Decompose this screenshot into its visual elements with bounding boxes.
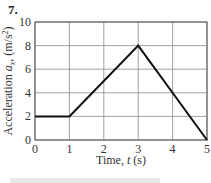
y-tick-label: 0	[25, 133, 31, 147]
grid	[35, 22, 207, 140]
y-tick-label: 8	[25, 39, 31, 53]
plot-frame	[35, 22, 207, 140]
x-tick-label: 1	[66, 142, 72, 156]
y-tick-label: 10	[19, 15, 31, 29]
x-axis-label: Time, t (s)	[96, 153, 146, 167]
y-tick-label: 4	[25, 86, 31, 100]
chart: 7. 0246810 012345 Time, t (s) Accelerati…	[0, 0, 211, 183]
y-tick-labels: 0246810	[19, 15, 31, 147]
x-tick-label: 5	[204, 142, 210, 156]
x-tick-label: 0	[32, 142, 38, 156]
cropped-caption-line	[10, 178, 160, 183]
x-tick-label: 4	[170, 142, 176, 156]
y-tick-label: 6	[25, 62, 31, 76]
y-tick-label: 2	[25, 109, 31, 123]
y-axis-label: Acceleration ax, (m/s2)	[1, 26, 17, 135]
figure-number: 7.	[8, 2, 18, 17]
